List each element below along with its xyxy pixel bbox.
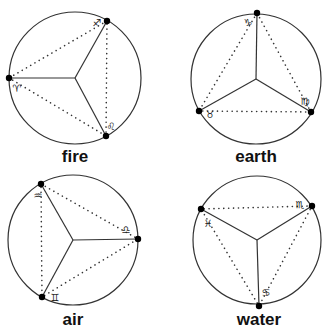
leo-glyph-icon: ♌ — [107, 121, 116, 132]
gemini-point — [39, 294, 45, 300]
spoke-aquarius — [41, 184, 73, 240]
water-diagram: ♏♓♋water — [193, 176, 321, 329]
spoke-taurus — [199, 79, 256, 111]
spoke-sagittarius — [75, 21, 107, 78]
aquarius-glyph-icon: ♒ — [34, 190, 43, 201]
leo-point — [103, 133, 109, 139]
pisces-glyph-icon: ♓ — [204, 218, 213, 229]
earth-diagram: ♑♉♍earth — [191, 10, 321, 166]
libra-point — [135, 236, 141, 242]
virgo-glyph-icon: ♍ — [301, 96, 310, 107]
water-label: water — [236, 310, 282, 329]
fire-diagram: ♐♈♌fire — [6, 12, 141, 166]
triplicity-diagrams: ♐♈♌fire ♑♉♍earth ♒♎♊air ♏♓♋water — [0, 0, 325, 329]
gemini-glyph-icon: ♊ — [51, 292, 60, 303]
spoke-leo — [75, 78, 106, 136]
taurus-point — [196, 108, 202, 114]
spoke-libra — [73, 239, 138, 240]
spoke-capricorn — [256, 13, 257, 79]
sagittarius-glyph-icon: ♐ — [93, 17, 102, 28]
aries-point — [6, 75, 12, 81]
scorpio-glyph-icon: ♏ — [296, 199, 305, 210]
pisces-point — [198, 206, 204, 212]
cancer-glyph-icon: ♋ — [262, 287, 271, 298]
sagittarius-point — [104, 18, 110, 24]
spoke-cancer — [257, 240, 259, 306]
capricorn-point — [254, 10, 260, 16]
aquarius-point — [38, 181, 44, 187]
scorpio-point — [309, 203, 315, 209]
earth-label: earth — [235, 147, 277, 166]
aries-glyph-icon: ♈ — [13, 83, 22, 94]
air-label: air — [63, 310, 84, 329]
fire-label: fire — [62, 147, 88, 166]
cancer-point — [256, 303, 262, 309]
libra-glyph-icon: ♎ — [122, 224, 131, 235]
taurus-glyph-icon: ♉ — [206, 109, 215, 120]
capricorn-glyph-icon: ♑ — [244, 17, 253, 28]
virgo-point — [308, 109, 314, 115]
air-diagram: ♒♎♊air — [8, 175, 141, 329]
